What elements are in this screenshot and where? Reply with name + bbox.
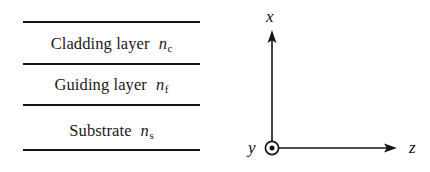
y-axis-out-of-page-icon — [265, 141, 278, 154]
refractive-index-subscript: f — [165, 83, 169, 95]
stack-rule-cladding-guiding — [23, 63, 200, 65]
layer-name-guiding: Guiding layer — [54, 75, 147, 94]
layer-stack-diagram: Cladding layernc Guiding layernf Substra… — [0, 0, 215, 172]
coordinate-axes-diagram: x y z — [215, 0, 430, 172]
layer-name-cladding: Cladding layer — [51, 34, 150, 53]
axis-label-y: y — [248, 139, 256, 156]
stack-rule-guiding-substrate — [23, 104, 200, 106]
refractive-index-subscript: s — [149, 129, 153, 141]
refractive-index-cladding: nc — [159, 36, 173, 54]
layer-label-cladding: Cladding layernc — [23, 36, 200, 54]
layer-label-substrate: Substratens — [23, 123, 200, 141]
origin-dot — [270, 146, 275, 151]
x-axis-arrow-icon — [268, 30, 277, 141]
refractive-index-symbol: n — [159, 34, 167, 53]
layer-name-substrate: Substrate — [69, 121, 131, 140]
axis-label-z: z — [409, 139, 416, 156]
refractive-index-substrate: ns — [141, 123, 154, 141]
waveguide-figure: Cladding layernc Guiding layernf Substra… — [0, 0, 430, 172]
stack-rule-bottom — [23, 149, 200, 151]
stack-rule-top — [23, 21, 200, 23]
refractive-index-symbol: n — [141, 121, 149, 140]
axis-label-x: x — [266, 8, 274, 25]
refractive-index-subscript: c — [167, 42, 172, 54]
z-axis-arrow-icon — [279, 144, 397, 153]
layer-label-guiding: Guiding layernf — [23, 77, 200, 95]
refractive-index-guiding: nf — [156, 77, 169, 95]
refractive-index-symbol: n — [156, 75, 164, 94]
